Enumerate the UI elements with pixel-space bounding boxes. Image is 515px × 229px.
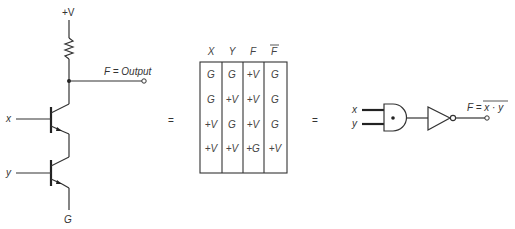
svg-text:+G: +G xyxy=(246,143,260,154)
gate-diagram: x y F = x · y xyxy=(351,101,508,131)
gate-output-terminal-icon xyxy=(485,116,489,120)
transistor-y-icon xyxy=(51,157,69,188)
svg-text:G: G xyxy=(207,94,215,105)
ground-label: G xyxy=(64,214,72,225)
svg-text:+V: +V xyxy=(226,143,240,154)
header-x: X xyxy=(207,46,215,57)
input-x-label: x xyxy=(5,113,12,124)
svg-text:+V: +V xyxy=(226,94,240,105)
svg-text:+V: +V xyxy=(205,119,219,130)
svg-text:+V: +V xyxy=(247,94,261,105)
transistor-circuit: +V F = Output x xyxy=(5,7,153,225)
gate-input-x-label: x xyxy=(351,104,358,115)
svg-text:+V: +V xyxy=(247,69,261,80)
svg-text:+V: +V xyxy=(269,143,283,154)
and-dot-icon xyxy=(391,116,395,120)
svg-text:G: G xyxy=(228,119,236,130)
header-f-bar: F xyxy=(271,46,278,57)
output-label: F = Output xyxy=(104,66,153,77)
truth-table: X Y F F G G +V G G +V +V G +V G +V G +V … xyxy=(200,45,287,173)
gate-output-label: F = x · y xyxy=(467,102,504,113)
transistor-x-icon xyxy=(51,104,69,134)
equals-sign: = xyxy=(312,115,318,126)
and-gate-icon xyxy=(384,104,407,131)
header-y: Y xyxy=(229,46,237,57)
svg-text:+V: +V xyxy=(205,143,219,154)
not-gate-icon xyxy=(428,107,450,130)
supply-label: +V xyxy=(62,7,75,18)
svg-text:G: G xyxy=(271,69,279,80)
output-terminal-icon xyxy=(142,79,146,83)
svg-text:G: G xyxy=(271,94,279,105)
svg-text:G: G xyxy=(207,69,215,80)
inverter-bubble-icon xyxy=(450,115,455,120)
nand-circuit-figure: +V F = Output x xyxy=(0,0,515,229)
gate-input-y-label: y xyxy=(351,118,358,129)
resistor-icon xyxy=(65,38,73,59)
svg-text:+V: +V xyxy=(247,119,261,130)
table-row: +V G +V G xyxy=(205,119,279,130)
svg-text:G: G xyxy=(271,119,279,130)
input-y-label: y xyxy=(5,167,12,178)
equals-sign: = xyxy=(168,115,174,126)
svg-text:G: G xyxy=(228,69,236,80)
table-row: +V +V +G +V xyxy=(205,143,283,154)
header-f: F xyxy=(250,46,257,57)
